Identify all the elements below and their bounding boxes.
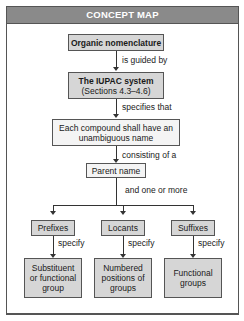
- node-label: Functional: [173, 268, 212, 278]
- link-label-guided: is guided by: [122, 55, 167, 65]
- node-prefixes: Prefixes: [31, 220, 75, 236]
- concept-map-header: CONCEPT MAP: [7, 7, 238, 24]
- node-label: group: [42, 283, 64, 293]
- connector: [123, 236, 124, 256]
- link-label-specify: specify: [58, 238, 84, 248]
- node-functional-groups: Functional groups: [164, 258, 222, 298]
- link-label-specify: specify: [198, 238, 224, 248]
- node-locants: Locants: [101, 220, 145, 236]
- node-label: Suffixes: [178, 223, 208, 233]
- connector: [193, 236, 194, 256]
- connector: [116, 178, 117, 205]
- node-label: Numbered: [103, 263, 143, 273]
- node-suffixes: Suffixes: [171, 220, 215, 236]
- link-label-specify: specify: [128, 238, 154, 248]
- link-label-specifies: specifies that: [122, 102, 172, 112]
- node-label: Parent name: [92, 166, 141, 176]
- node-label: or functional: [30, 273, 76, 283]
- node-label: Prefixes: [38, 223, 69, 233]
- connector: [53, 236, 54, 256]
- node-label: Substituent: [32, 263, 75, 273]
- node-organic-nomenclature: Organic nomenclature: [68, 34, 164, 51]
- arrow-down-icon: [50, 211, 56, 215]
- link-label-consisting: consisting of a: [122, 150, 176, 160]
- node-label: The IUPAC system: [79, 76, 154, 86]
- node-label: Each compound shall have an: [59, 123, 173, 133]
- node-substituent-group: Substituent or functional group: [24, 258, 82, 298]
- node-label: groups: [110, 283, 136, 293]
- link-label-one-or-more: and one or more: [125, 185, 187, 195]
- arrow-down-icon: [120, 211, 126, 215]
- node-parent-name: Parent name: [86, 163, 146, 178]
- node-sublabel: (Sections 4.3–4.6): [82, 86, 151, 96]
- arrow-down-icon: [113, 67, 119, 71]
- arrow-down-icon: [113, 114, 119, 118]
- node-label: positions of: [102, 273, 145, 283]
- node-label: unambiguous name: [79, 133, 154, 143]
- node-label: Organic nomenclature: [71, 38, 161, 48]
- node-each-compound: Each compound shall have an unambiguous …: [52, 119, 180, 146]
- arrow-down-icon: [190, 211, 196, 215]
- node-numbered-positions: Numbered positions of groups: [94, 258, 152, 298]
- node-label: groups: [180, 278, 206, 288]
- node-iupac-system: The IUPAC system (Sections 4.3–4.6): [68, 72, 164, 99]
- node-label: Locants: [108, 223, 138, 233]
